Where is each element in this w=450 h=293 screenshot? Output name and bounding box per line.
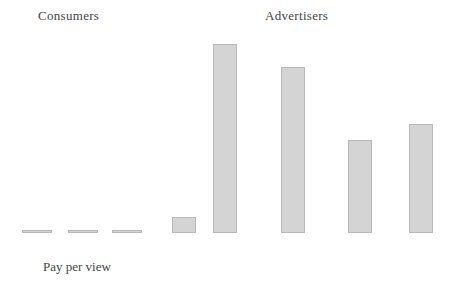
bar-shape-movie: [22, 230, 52, 233]
section-title-consumers: Consumers: [38, 8, 99, 24]
group-caption-pay-per-view: Pay per view: [43, 259, 111, 275]
bar-shape-home-video: [172, 217, 196, 233]
bar-shape-consumer-promotion: [348, 140, 372, 233]
bar-chart: Consumers Advertisers .175 Movie .45 Eve…: [0, 0, 450, 293]
bar-shape-advertising: [213, 44, 237, 233]
bar-shape-shop-at-home: [281, 67, 305, 233]
section-title-advertisers: Advertisers: [265, 8, 328, 24]
bar-shape-total: [112, 230, 142, 233]
bar-shape-trade-promotion: [409, 124, 433, 233]
bar-shape-event: [68, 230, 98, 233]
